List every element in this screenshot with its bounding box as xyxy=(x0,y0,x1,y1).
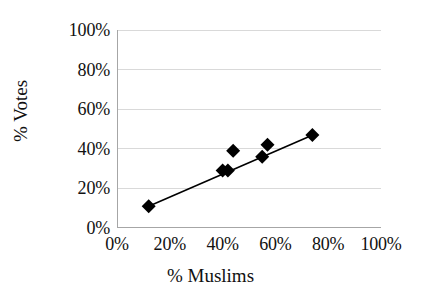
data-point-marker xyxy=(255,150,269,164)
y-tick-label-80%: 80% xyxy=(78,59,110,80)
x-axis-tick-labels: 0%20%40%60%80%100% xyxy=(0,234,421,264)
data-point-marker xyxy=(305,128,319,142)
data-point-marker xyxy=(260,138,274,152)
data-markers xyxy=(142,128,320,213)
gridlines xyxy=(117,30,381,228)
x-tick-label-100%: 100% xyxy=(360,234,401,255)
x-tick-label-40%: 40% xyxy=(206,234,238,255)
plot-area xyxy=(117,30,381,228)
x-tick-label-20%: 20% xyxy=(154,234,186,255)
axis-lines xyxy=(117,30,381,228)
data-point-marker xyxy=(142,199,156,213)
x-tick-label-60%: 60% xyxy=(259,234,291,255)
plot-svg xyxy=(117,30,381,228)
x-tick-label-0%: 0% xyxy=(105,234,129,255)
y-tick-label-40%: 40% xyxy=(78,138,110,159)
y-tick-label-60%: 60% xyxy=(78,99,110,120)
scatter-chart: % Votes 0%20%40%60%80%100% 0%20%40%60%80… xyxy=(0,0,421,306)
x-axis-title: % Muslims xyxy=(0,265,421,287)
x-tick-label-80%: 80% xyxy=(312,234,344,255)
y-tick-label-100%: 100% xyxy=(69,20,110,41)
y-tick-label-20%: 20% xyxy=(78,178,110,199)
axis-ticks xyxy=(117,30,381,228)
data-point-marker xyxy=(226,144,240,158)
